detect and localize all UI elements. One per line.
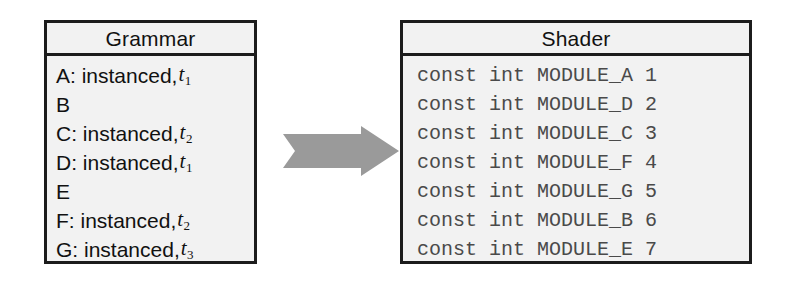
grammar-panel-title: Grammar <box>105 28 195 49</box>
grammar-row-time: t2 <box>180 122 193 145</box>
grammar-row-time <box>71 180 72 203</box>
grammar-row-label: C: instanced, <box>56 123 179 144</box>
shader-panel-title: Shader <box>542 28 611 49</box>
shader-row: const int MODULE_D 2 <box>417 90 749 119</box>
grammar-row-label: D: instanced, <box>56 152 179 173</box>
grammar-row-label: G: instanced, <box>56 239 180 260</box>
grammar-panel: Grammar A: instanced,t1 B C: instanced,t… <box>44 20 257 264</box>
grammar-row-time: t1 <box>178 64 191 87</box>
grammar-row-time-var: t <box>177 207 183 231</box>
grammar-row-time-var: t <box>180 120 186 144</box>
grammar-row-time-index: 2 <box>186 131 193 146</box>
shader-panel: Shader const int MODULE_A 1 const int MO… <box>400 20 752 264</box>
grammar-row-label: E <box>56 181 70 202</box>
grammar-row-time: t1 <box>180 151 193 174</box>
grammar-row: G: instanced,t3 <box>56 235 254 264</box>
shader-row: const int MODULE_G 5 <box>417 177 749 206</box>
grammar-row-time-var: t <box>181 236 187 260</box>
grammar-row-time-index: 2 <box>184 218 191 233</box>
grammar-row: A: instanced,t1 <box>56 61 254 90</box>
right-block-arrow-icon <box>283 126 399 176</box>
shader-row: const int MODULE_A 1 <box>417 61 749 90</box>
grammar-row-time: t3 <box>181 238 194 261</box>
grammar-row-time-index: 3 <box>187 247 194 262</box>
shader-row: const int MODULE_B 6 <box>417 206 749 235</box>
grammar-row-time-index: 1 <box>185 73 192 88</box>
shader-row: const int MODULE_F 4 <box>417 148 749 177</box>
grammar-row-label: B <box>56 94 70 115</box>
diagram-canvas: Grammar A: instanced,t1 B C: instanced,t… <box>0 0 792 282</box>
grammar-row-time-index: 1 <box>186 160 193 175</box>
grammar-row-time: t2 <box>177 209 190 232</box>
shader-panel-header: Shader <box>403 23 749 56</box>
shader-row: const int MODULE_C 3 <box>417 119 749 148</box>
grammar-row: C: instanced,t2 <box>56 119 254 148</box>
shader-panel-body: const int MODULE_A 1 const int MODULE_D … <box>403 56 749 264</box>
grammar-row-label: F: instanced, <box>56 210 176 231</box>
shader-row: const int MODULE_E 7 <box>417 235 749 264</box>
grammar-row-time-var: t <box>178 62 184 86</box>
grammar-row-time <box>71 93 72 116</box>
grammar-row: D: instanced,t1 <box>56 148 254 177</box>
grammar-row: F: instanced,t2 <box>56 206 254 235</box>
grammar-panel-header: Grammar <box>47 23 254 56</box>
grammar-row-time-var: t <box>180 149 186 173</box>
grammar-row: E <box>56 177 254 206</box>
grammar-row: B <box>56 90 254 119</box>
grammar-panel-body: A: instanced,t1 B C: instanced,t2 D: ins… <box>47 56 254 264</box>
grammar-row-label: A: instanced, <box>56 65 177 86</box>
